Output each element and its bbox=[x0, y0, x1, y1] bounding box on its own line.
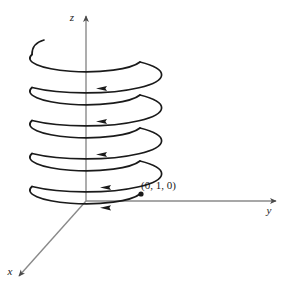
x-axis-label: x bbox=[7, 265, 13, 277]
y-axis-label: y bbox=[266, 204, 272, 216]
figure-background bbox=[0, 0, 293, 297]
start-point-dot bbox=[138, 191, 143, 196]
start-point-label: (0, 1, 0) bbox=[141, 179, 176, 192]
helix-diagram: z y x (0, 1, 0) bbox=[0, 0, 293, 297]
z-axis-label: z bbox=[69, 11, 75, 23]
